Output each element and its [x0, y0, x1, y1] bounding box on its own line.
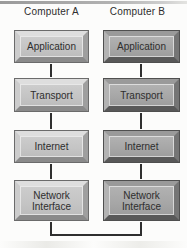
connector-b-transport-internet	[140, 113, 142, 129]
computer-b-network-interface-box: Network Interface	[103, 180, 180, 221]
computer-a-application-box: Application	[14, 30, 89, 63]
box-bevel: Network Interface	[104, 181, 179, 220]
top-divider-bar	[0, 1, 187, 4]
box-bevel: Internet	[15, 131, 88, 162]
box-face: Network Interface	[20, 186, 83, 215]
connector-a-transport-internet	[50, 113, 52, 129]
box-bevel: Network Interface	[15, 181, 88, 220]
computer-a-internet-box: Internet	[14, 130, 89, 163]
box-face: Internet	[20, 136, 83, 157]
box-face: Network Interface	[109, 186, 174, 215]
layer-label-network-interface: Network Interface	[109, 190, 174, 212]
box-face: Application	[20, 36, 83, 57]
box-face: Transport	[20, 84, 83, 106]
computer-a-transport-box: Transport	[14, 78, 89, 112]
computer-b-title: Computer B	[99, 6, 176, 18]
connector-network-interface-link	[50, 222, 142, 236]
layer-label-internet: Internet	[35, 141, 69, 152]
layer-label-application: Application	[27, 41, 76, 52]
box-bevel: Transport	[104, 79, 179, 111]
computer-b-transport-box: Transport	[103, 78, 180, 112]
box-bevel: Internet	[104, 131, 179, 162]
box-bevel: Application	[104, 31, 179, 62]
computer-a-network-interface-box: Network Interface	[14, 180, 89, 221]
box-face: Transport	[109, 84, 174, 106]
box-bevel: Application	[15, 31, 88, 62]
layer-label-network-interface: Network Interface	[20, 190, 83, 212]
computer-b-application-box: Application	[103, 30, 180, 63]
box-bevel: Transport	[15, 79, 88, 111]
connector-b-application-transport	[140, 64, 142, 77]
protocol-stack-diagram: Computer A Computer B Application Transp…	[0, 0, 187, 248]
box-face: Internet	[109, 136, 174, 157]
layer-label-application: Application	[117, 41, 166, 52]
computer-a-title: Computer A	[14, 6, 89, 18]
box-face: Application	[109, 36, 174, 57]
connector-b-internet-network	[140, 164, 142, 179]
scan-artifact	[0, 241, 187, 248]
layer-label-transport: Transport	[30, 90, 72, 101]
computer-b-internet-box: Internet	[103, 130, 180, 163]
connector-a-application-transport	[50, 64, 52, 77]
connector-a-internet-network	[50, 164, 52, 179]
layer-label-transport: Transport	[120, 90, 162, 101]
layer-label-internet: Internet	[125, 141, 159, 152]
